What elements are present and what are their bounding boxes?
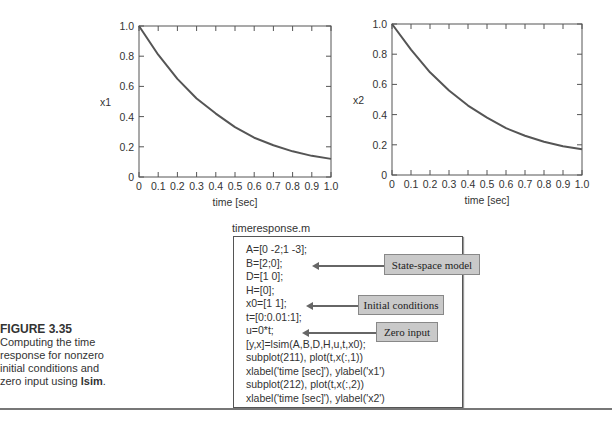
y-tick-label: 0.4 <box>372 109 387 121</box>
x-tick-label: 0.3 <box>442 178 457 190</box>
y-tick-label: 0.2 <box>372 139 387 151</box>
x-tick-label: 0.6 <box>247 180 262 192</box>
code-line: subplot(211), plot(t,x(:,1)) <box>246 351 363 363</box>
y-tick-label: 0.8 <box>372 48 387 60</box>
y-tick-label: 0 <box>381 169 387 181</box>
callout-initial-conditions: Initial conditions <box>358 295 444 315</box>
caption-period: . <box>103 375 106 387</box>
callout-state-space-model: State-space model <box>384 254 480 275</box>
x-axis-label: time [sec] <box>213 196 258 208</box>
x-tick-label: 0.8 <box>537 178 552 190</box>
y-axis-label: x1 <box>100 96 111 108</box>
x-tick-label: 0.5 <box>480 178 495 190</box>
y-tick-label: 0.2 <box>119 141 134 153</box>
code-line: D=[1 0]; <box>246 270 283 282</box>
plot-x2: 00.10.20.30.40.50.60.70.80.91.000.20.40.… <box>350 0 612 215</box>
figure-caption: FIGURE 3.35 Computing the time response … <box>0 323 120 388</box>
arrow-left-icon <box>318 265 384 267</box>
x-tick-label: 0.8 <box>285 180 300 192</box>
x-tick-label: 0 <box>136 180 142 192</box>
code-line: H=[0]; <box>246 284 274 296</box>
code-line: [y,x]=lsim(A,B,D,H,u,t,x0); <box>246 338 366 350</box>
code-line: u=0*t; <box>246 324 274 336</box>
plot-x1: 00.10.20.30.40.50.60.70.80.91.000.20.40.… <box>100 0 350 215</box>
y-tick-label: 1.0 <box>372 18 387 30</box>
x-tick-label: 0.2 <box>170 180 185 192</box>
code-line: B=[2;0]; <box>246 257 282 269</box>
figure-number: FIGURE 3.35 <box>0 323 120 336</box>
x-tick-label: 0 <box>389 178 395 190</box>
code-line: subplot(212), plot(t,x(:,2)) <box>246 378 364 390</box>
caption-bold-word: lsim <box>81 375 103 387</box>
y-tick-label: 0.4 <box>119 111 134 123</box>
y-axis-label: x2 <box>353 94 364 106</box>
x-tick-label: 0.1 <box>151 180 166 192</box>
code-line: xlabel('time [sec]'), ylabel('x1') <box>246 365 385 377</box>
code-listing: A=[0 -2;1 -3]; B=[2;0]; D=[1 0]; H=[0]; … <box>233 236 463 408</box>
x-tick-label: 0.2 <box>423 178 438 190</box>
x-tick-label: 0.6 <box>499 178 514 190</box>
x-tick-label: 0.9 <box>556 178 571 190</box>
x-tick-label: 0.4 <box>208 180 223 192</box>
x-tick-label: 0.7 <box>518 178 533 190</box>
y-tick-label: 0.6 <box>372 78 387 90</box>
callout-zero-input: Zero input <box>376 322 438 342</box>
x-axis-label: time [sec] <box>465 194 510 206</box>
x-tick-label: 0.7 <box>266 180 281 192</box>
y-tick-label: 0.6 <box>119 80 134 92</box>
x-tick-label: 0.9 <box>304 180 319 192</box>
x-tick-label: 0.1 <box>404 178 419 190</box>
x-tick-label: 0.4 <box>461 178 476 190</box>
code-line: t=[0:0.01:1]; <box>246 311 302 323</box>
x-tick-label: 1.0 <box>575 178 590 190</box>
data-line <box>139 26 331 159</box>
x-tick-label: 0.5 <box>228 180 243 192</box>
y-tick-label: 0.8 <box>119 50 134 62</box>
x-tick-label: 1.0 <box>324 180 339 192</box>
code-filename: timeresponse.m <box>232 222 310 234</box>
x-tick-label: 0.3 <box>189 180 204 192</box>
y-tick-label: 1.0 <box>119 20 134 32</box>
code-line: x0=[1 1]; <box>246 297 287 309</box>
bottom-rule <box>0 408 612 410</box>
arrow-left-icon <box>308 332 376 334</box>
y-tick-label: 0 <box>128 171 134 183</box>
code-line: A=[0 -2;1 -3]; <box>246 243 307 255</box>
plot-frame <box>392 24 582 175</box>
data-line <box>392 24 582 149</box>
arrow-left-icon <box>312 305 358 307</box>
code-line: xlabel('time [sec]'), ylabel('x2') <box>246 392 385 404</box>
